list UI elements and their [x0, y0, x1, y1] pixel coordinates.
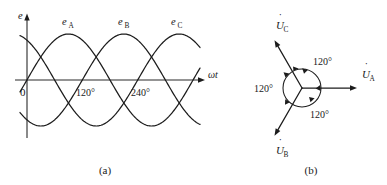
figure-text-layer: e 0 ωt 120° 240° e A e B e C ˙ U C ˙ U	[0, 0, 387, 185]
svg-text:e: e	[118, 16, 123, 27]
caption-a: (a)	[99, 164, 112, 177]
svg-text:C: C	[284, 25, 289, 34]
phasor-label-uc: ˙ U C	[276, 11, 289, 34]
phasor-label-ub: ˙ U B	[276, 136, 289, 159]
svg-text:e: e	[62, 16, 67, 27]
svg-text:B: B	[284, 150, 289, 159]
origin-label: 0	[20, 86, 26, 98]
y-axis-label: e	[18, 10, 23, 21]
svg-text:C: C	[178, 21, 183, 30]
x-tick-240: 240°	[131, 87, 150, 98]
angle-label-bottom-right: 120°	[310, 109, 329, 120]
angle-label-left: 120°	[254, 83, 273, 94]
curve-label-ec: e C	[171, 16, 183, 30]
phasor-label-ua: ˙ U A	[362, 60, 376, 83]
svg-text:e: e	[171, 16, 176, 27]
caption-b: (b)	[305, 164, 318, 177]
x-axis-label: ωt	[208, 69, 218, 80]
figure-root: e 0 ωt 120° 240° e A e B e C ˙ U C ˙ U	[0, 0, 387, 185]
svg-text:B: B	[125, 21, 130, 30]
curve-label-eb: e B	[118, 16, 130, 30]
x-tick-120: 120°	[76, 87, 95, 98]
svg-text:A: A	[69, 21, 75, 30]
angle-label-top: 120°	[313, 56, 332, 67]
curve-label-ea: e A	[62, 16, 75, 30]
svg-text:A: A	[370, 74, 376, 83]
